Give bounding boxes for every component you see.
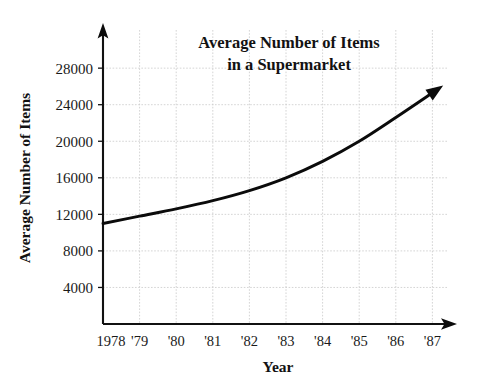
x-tick-label: '87 <box>424 333 441 349</box>
x-tick-label: '84 <box>314 333 332 349</box>
data-curve-arrow <box>425 86 443 101</box>
x-tick-label: '85 <box>351 333 368 349</box>
y-tick-label: 16000 <box>56 170 94 186</box>
y-tick-label: 4000 <box>63 280 93 296</box>
y-tick-label: 20000 <box>56 134 94 150</box>
y-tick-label: 24000 <box>56 97 94 113</box>
y-axis-title: Average Number of Items <box>16 93 33 263</box>
y-tick-labels: 400080001200016000200002400028000 <box>56 61 94 296</box>
x-tick-label: '79 <box>131 333 148 349</box>
x-axis-title: Year <box>263 358 294 375</box>
chart-title-line-2: in a Supermarket <box>227 55 351 74</box>
x-tick-label: '83 <box>277 333 294 349</box>
chart-title-line-1: Average Number of Items <box>198 33 380 52</box>
data-series-group <box>103 86 443 224</box>
x-tick-label: '80 <box>168 333 185 349</box>
y-tick-label: 28000 <box>56 61 94 77</box>
x-tick-label: '82 <box>241 333 258 349</box>
data-curve-line <box>103 93 432 224</box>
x-tick-labels: 1978'79'80'81'82'83'84'85'86'87 <box>97 333 441 349</box>
chart-figure: 400080001200016000200002400028000 1978'7… <box>0 0 482 387</box>
x-tick-label: 1978 <box>97 333 126 349</box>
chart-canvas: 400080001200016000200002400028000 1978'7… <box>0 0 482 387</box>
x-tick-label: '81 <box>204 333 221 349</box>
y-tick-label: 12000 <box>56 207 94 223</box>
x-tick-label: '86 <box>387 333 404 349</box>
y-tick-label: 8000 <box>63 243 93 259</box>
vertical-gridlines <box>103 30 432 324</box>
